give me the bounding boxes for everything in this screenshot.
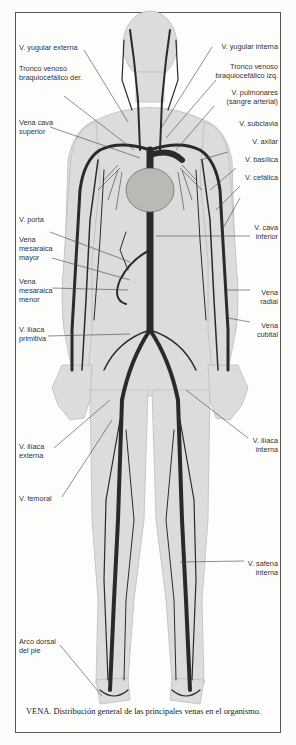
label-porta: V. porta	[19, 215, 44, 224]
vein-illustration	[0, 0, 296, 745]
label-pulmonares: V. pulmonares (sangre arterial)	[226, 88, 278, 106]
label-arco-dorsal-pie: Arco dorsal del pie	[19, 637, 56, 655]
heart-lungs	[126, 168, 174, 212]
caption-title: VENA.	[26, 707, 51, 716]
label-cefalica: V. cefálica	[245, 173, 278, 182]
label-subclavia: V. subclavia	[239, 119, 278, 128]
label-basilica: V. basílica	[245, 155, 278, 164]
label-iliaca-externa: V. ilíaca externa	[19, 442, 44, 460]
label-tronco-braquiocefalico-izq: Tronco venoso braquiocefálico izq.	[216, 62, 278, 80]
figure-caption: VENA. Distribución general de las princi…	[26, 706, 278, 717]
label-axilar: V. axilar	[252, 137, 278, 146]
label-mesaraica-menor: Vena mesaraica menor	[19, 277, 53, 304]
label-cava-inferior: V. cava inferior	[254, 223, 278, 241]
label-iliaca-primitiva: V. ilíaca primitiva	[19, 325, 46, 343]
label-safena-interna: V. safena interna	[248, 559, 278, 577]
label-tronco-braquiocefalico-der: Tronco venoso braquiocefálico der.	[19, 64, 82, 82]
caption-text: Distribución general de las principales …	[51, 707, 261, 716]
label-yugular-interna: V. yugular interna	[221, 42, 278, 51]
label-mesaraica-mayor: Vena mesaraica mayor	[19, 235, 53, 262]
label-cubital: Vena cubital	[257, 321, 278, 339]
label-yugular-externa: V. yugular externa	[19, 43, 78, 52]
label-vena-cava-superior: Vena cava superior	[19, 118, 53, 136]
label-iliaca-interna: V. ilíaca interna	[253, 436, 278, 454]
label-femoral: V. femoral	[19, 494, 52, 503]
label-radial: Vena radial	[260, 288, 278, 306]
body-silhouette	[52, 11, 248, 704]
